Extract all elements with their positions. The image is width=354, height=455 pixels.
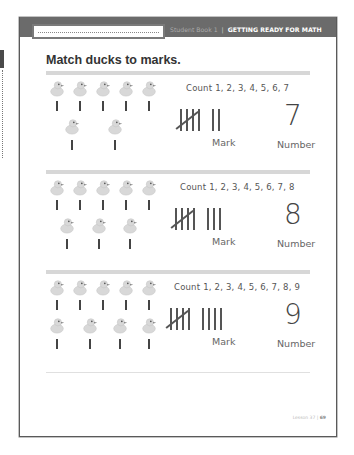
tally-stick: [56, 300, 58, 310]
rubber-duck-icon: [94, 178, 112, 196]
rubber-duck-icon: [111, 316, 129, 334]
number-label: Number: [277, 238, 315, 249]
lesson-label: Lesson 37: [293, 415, 316, 420]
rubber-duck-icon: [90, 216, 108, 234]
tally-stick: [89, 339, 91, 349]
side-dotted-guide: [2, 70, 3, 158]
mark-label: Mark: [212, 336, 235, 347]
count-sequence: Count 1, 2, 3, 4, 5, 6, 7, 8: [180, 182, 295, 192]
rubber-duck-icon: [48, 316, 66, 334]
name-dotted-line: [38, 32, 159, 33]
tally-stick: [114, 140, 116, 150]
tally-stick: [148, 101, 150, 111]
header-breadcrumb: Student Book 1 | GETTING READY FOR MATH: [170, 26, 322, 33]
rubber-duck-icon: [58, 216, 76, 234]
divider-bottom: [46, 372, 310, 373]
tally-stick: [56, 339, 58, 349]
activity-title: Match ducks to marks.: [46, 53, 181, 67]
count-sequence: Count 1, 2, 3, 4, 5, 6, 7: [186, 83, 289, 93]
count-sequence: Count 1, 2, 3, 4, 5, 6, 7, 8, 9: [174, 282, 300, 292]
tally-stick: [148, 200, 150, 210]
rubber-duck-icon: [140, 316, 158, 334]
page-footer: Lesson 37 | 69: [293, 415, 326, 420]
rubber-duck-icon: [94, 278, 112, 296]
rubber-duck-icon: [94, 79, 112, 97]
exercise-row-7: Count 1, 2, 3, 4, 5, 6, 77MarkNumber: [20, 77, 336, 169]
footer-separator: |: [317, 415, 319, 420]
side-tab: [0, 50, 4, 68]
number-answer: 9: [284, 298, 302, 331]
tally-stick: [148, 339, 150, 349]
page-number: 69: [320, 415, 326, 420]
rubber-duck-icon: [140, 79, 158, 97]
rubber-duck-icon: [121, 216, 139, 234]
divider-top: [46, 71, 310, 75]
rubber-duck-icon: [140, 178, 158, 196]
rubber-duck-icon: [48, 79, 66, 97]
divider-2: [46, 270, 310, 274]
tally-stick: [71, 140, 73, 150]
book-label: Student Book 1: [170, 26, 218, 33]
mark-label: Mark: [212, 236, 235, 247]
tally-stick: [98, 239, 100, 249]
tally-stick: [148, 300, 150, 310]
rubber-duck-icon: [106, 117, 124, 135]
tally-stick: [125, 300, 127, 310]
rubber-duck-icon: [48, 278, 66, 296]
name-field[interactable]: [32, 24, 165, 39]
mark-label: Mark: [212, 137, 235, 148]
tally-stick: [102, 300, 104, 310]
worksheet-page: Student Book 1 | GETTING READY FOR MATH …: [19, 17, 337, 437]
tally-stick: [125, 200, 127, 210]
rubber-duck-icon: [71, 79, 89, 97]
tally-stick: [79, 200, 81, 210]
tally-stick: [119, 339, 121, 349]
tally-stick: [56, 200, 58, 210]
rubber-duck-icon: [63, 117, 81, 135]
tally-stick: [56, 101, 58, 111]
divider-1: [46, 170, 310, 174]
section-label: GETTING READY FOR MATH: [228, 26, 322, 33]
rubber-duck-icon: [71, 278, 89, 296]
rubber-duck-icon: [117, 178, 135, 196]
rubber-duck-icon: [81, 316, 99, 334]
number-answer: 7: [284, 99, 302, 132]
exercise-row-8: Count 1, 2, 3, 4, 5, 6, 7, 88MarkNumber: [20, 176, 336, 268]
tally-stick: [79, 300, 81, 310]
exercise-row-9: Count 1, 2, 3, 4, 5, 6, 7, 8, 99MarkNumb…: [20, 276, 336, 368]
tally-stick: [102, 101, 104, 111]
rubber-duck-icon: [48, 178, 66, 196]
rubber-duck-icon: [140, 278, 158, 296]
tally-stick: [125, 101, 127, 111]
breadcrumb-separator: |: [222, 26, 224, 33]
tally-stick: [79, 101, 81, 111]
rubber-duck-icon: [117, 278, 135, 296]
rubber-duck-icon: [71, 178, 89, 196]
rubber-duck-icon: [117, 79, 135, 97]
number-answer: 8: [284, 198, 302, 231]
tally-stick: [102, 200, 104, 210]
tally-stick: [66, 239, 68, 249]
number-label: Number: [277, 338, 315, 349]
number-label: Number: [277, 139, 315, 150]
tally-stick: [129, 239, 131, 249]
